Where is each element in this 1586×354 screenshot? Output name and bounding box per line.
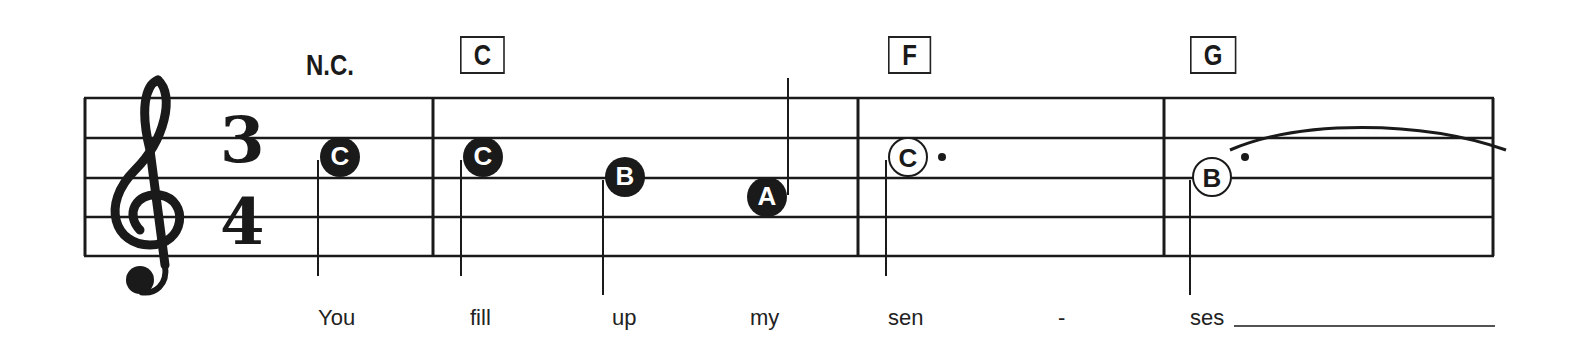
time-signature-bottom: 4 xyxy=(220,190,265,254)
lyric-my: my xyxy=(750,305,779,331)
chord-symbol-nc: N.C. xyxy=(306,48,354,82)
lyric-fill: fill xyxy=(470,305,491,331)
note-a-1: A xyxy=(747,177,787,217)
note-c-2: C xyxy=(463,137,503,177)
lyric-ses: ses xyxy=(1190,305,1224,331)
lyric-hyphen: - xyxy=(1058,305,1065,331)
time-signature-top: 3 xyxy=(220,108,265,172)
treble-clef-icon xyxy=(115,80,180,265)
chord-symbol-f: F xyxy=(888,36,931,74)
note-b-dotted-half: B xyxy=(1192,157,1232,197)
music-score: N.C. C F G 3 4 C C B A C B You fill up m… xyxy=(0,0,1586,354)
chord-symbol-g: G xyxy=(1190,36,1236,74)
note-b-1: B xyxy=(605,157,645,197)
lyric-you: You xyxy=(318,305,355,331)
lyric-sen: sen xyxy=(888,305,923,331)
chord-symbol-c: C xyxy=(460,36,505,74)
note-c-1: C xyxy=(320,137,360,177)
lyric-up: up xyxy=(612,305,636,331)
staff xyxy=(0,0,1586,354)
note-c-dotted-half: C xyxy=(888,137,928,177)
